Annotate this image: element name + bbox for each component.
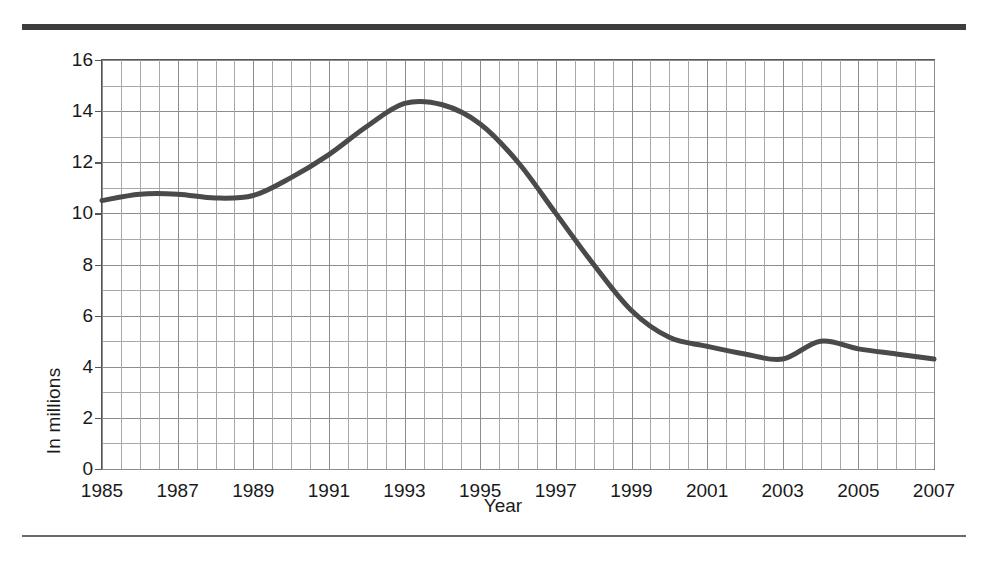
y-tick-mark bbox=[95, 316, 102, 317]
y-tick-mark bbox=[95, 60, 102, 61]
y-tick-label: 4 bbox=[33, 356, 93, 378]
y-tick-label: 6 bbox=[33, 305, 93, 327]
data-series-line bbox=[102, 60, 934, 469]
y-tick-label: 12 bbox=[33, 151, 93, 173]
series-line-path bbox=[102, 101, 934, 359]
line-chart-figure: In millions 0246810121416 19851987198919… bbox=[0, 40, 984, 535]
y-tick-label: 10 bbox=[33, 202, 93, 224]
y-tick-label: 14 bbox=[33, 100, 93, 122]
y-tick-mark bbox=[95, 162, 102, 163]
y-tick-label: 16 bbox=[33, 49, 93, 71]
x-axis-label-container: Year bbox=[0, 495, 984, 517]
y-tick-mark bbox=[95, 367, 102, 368]
bottom-divider-rule bbox=[22, 535, 966, 537]
y-tick-mark bbox=[95, 418, 102, 419]
gridline-x-major bbox=[934, 60, 935, 469]
y-tick-label: 0 bbox=[33, 458, 93, 480]
x-axis-label: Year bbox=[484, 495, 522, 516]
top-divider-rule bbox=[22, 24, 966, 30]
y-tick-mark bbox=[95, 469, 102, 470]
y-tick-label: 8 bbox=[33, 254, 93, 276]
chart-page: In millions 0246810121416 19851987198919… bbox=[0, 0, 984, 565]
gridline-y-major bbox=[102, 469, 934, 470]
y-tick-mark bbox=[95, 111, 102, 112]
y-tick-label: 2 bbox=[33, 407, 93, 429]
y-tick-mark bbox=[95, 265, 102, 266]
plot-area: 0246810121416 19851987198919911993199519… bbox=[101, 59, 935, 470]
y-tick-mark bbox=[95, 213, 102, 214]
